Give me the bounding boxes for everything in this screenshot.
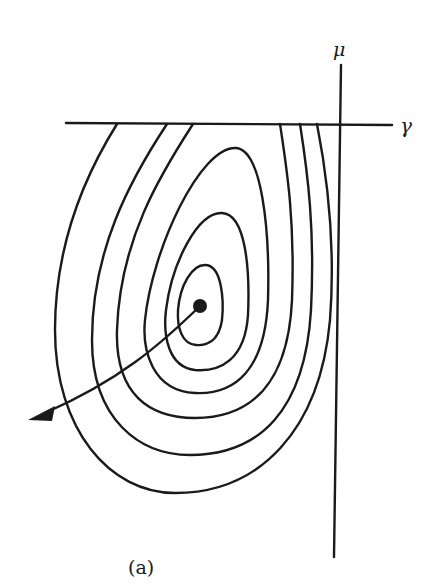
contour-closed-2 (165, 213, 248, 370)
figure-caption: (a) (128, 556, 154, 578)
center-point-icon (193, 299, 207, 313)
arrowhead-icon (28, 406, 55, 421)
contour-open-2 (92, 124, 312, 455)
diagram-figure: μ γ (a) (0, 0, 437, 587)
mu-axis-line (334, 65, 341, 557)
mu-axis-label: μ (333, 38, 345, 60)
contour-diagram (0, 0, 437, 587)
gamma-axis-line (66, 123, 392, 125)
gamma-axis-label: γ (400, 114, 412, 138)
contour-closed-3 (145, 148, 269, 393)
